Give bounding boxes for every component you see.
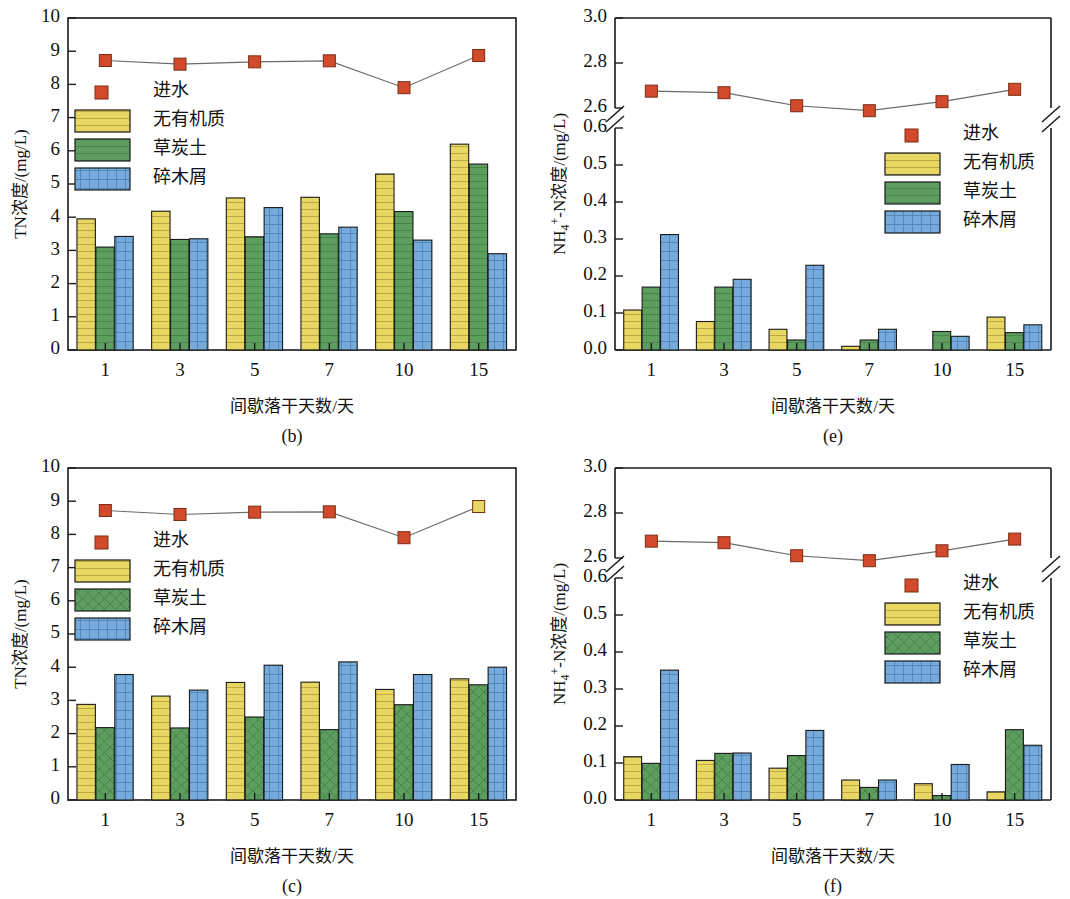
y-tick-label: 2 xyxy=(51,271,61,292)
inflow-marker xyxy=(323,506,335,518)
bar-peat-soil xyxy=(96,728,114,800)
bar-peat-soil xyxy=(320,234,338,350)
y-tick-label: 0 xyxy=(51,787,61,808)
bar-peat-soil xyxy=(1005,730,1023,800)
y-axis-title: TN浓度/(mg/L) xyxy=(11,129,30,239)
bar-peat-soil xyxy=(469,164,487,350)
inflow-marker xyxy=(863,105,875,117)
legend-swatch-no-organic xyxy=(75,560,130,582)
bar-peat-soil xyxy=(171,728,189,800)
inflow-marker xyxy=(718,537,730,549)
inflow-marker xyxy=(174,58,186,70)
y-tick-label: 8 xyxy=(51,72,61,93)
bar-wood-chips xyxy=(733,279,751,350)
inflow-marker xyxy=(1009,83,1021,95)
bar-wood-chips xyxy=(733,753,751,800)
bar-no-organic xyxy=(301,197,319,350)
legend-label-peat-soil: 草炭土 xyxy=(153,588,207,608)
bar-wood-chips xyxy=(488,667,506,800)
y-tick-label: 7 xyxy=(51,555,61,576)
legend-label-wood-chips: 碎木屑 xyxy=(963,210,1017,230)
legend-swatch-wood-chips xyxy=(75,618,130,640)
bar-no-organic xyxy=(226,682,244,800)
figure-container: 01234567891013571015进水无有机质草炭土碎木屑TN浓度/(mg… xyxy=(0,0,1070,899)
y-tick-label: 7 xyxy=(51,105,61,126)
y-tick-label: 0.5 xyxy=(583,152,607,173)
legend-swatch-inflow xyxy=(95,86,108,99)
bar-wood-chips xyxy=(806,730,824,800)
legend-swatch-wood-chips xyxy=(885,661,940,683)
y-tick-label: 6 xyxy=(51,588,61,609)
legend-swatch-peat-soil xyxy=(75,139,130,161)
y-tick-label: 0.4 xyxy=(583,189,607,210)
legend-swatch-inflow xyxy=(905,129,918,142)
bar-wood-chips xyxy=(413,240,431,350)
legend-swatch-wood-chips xyxy=(885,211,940,233)
x-tick-label: 7 xyxy=(325,359,335,380)
inflow-marker xyxy=(1009,533,1021,545)
y-tick-label: 2.6 xyxy=(583,95,607,116)
x-axis-title: 间歇落干天数/天 xyxy=(230,847,354,866)
y-tick-label: 3.0 xyxy=(583,455,607,476)
bar-peat-soil xyxy=(395,212,413,350)
y-axis-title-text: NH4+-N浓度/(mg/L) xyxy=(548,563,572,705)
bar-peat-soil xyxy=(96,247,114,350)
inflow-marker xyxy=(791,100,803,112)
bar-no-organic xyxy=(696,760,714,800)
y-tick-label: 2.8 xyxy=(583,500,607,521)
inflow-marker xyxy=(718,87,730,99)
legend-label-inflow: 进水 xyxy=(153,80,189,100)
x-tick-label: 5 xyxy=(250,359,260,380)
y-tick-label: 0.0 xyxy=(583,787,607,808)
bar-no-organic xyxy=(624,310,642,350)
bar-no-organic xyxy=(769,768,787,800)
inflow-marker xyxy=(398,82,410,94)
y-tick-label: 1 xyxy=(51,304,61,325)
chart-svg-b: 01234567891013571015进水无有机质草炭土碎木屑TN浓度/(mg… xyxy=(0,0,535,450)
y-tick-label: 0 xyxy=(51,337,61,358)
bar-wood-chips xyxy=(661,670,679,800)
y-axis-title: NH4+-N浓度/(mg/L) xyxy=(548,563,572,705)
legend-label-no-organic: 无有机质 xyxy=(153,559,225,579)
x-tick-label: 15 xyxy=(1005,809,1024,830)
bar-no-organic xyxy=(987,317,1005,350)
inflow-marker xyxy=(863,555,875,567)
legend-swatch-no-organic xyxy=(75,110,130,132)
bar-no-organic xyxy=(987,792,1005,800)
y-tick-label: 6 xyxy=(51,138,61,159)
legend-label-no-organic: 无有机质 xyxy=(153,109,225,129)
bar-wood-chips xyxy=(951,764,969,800)
legend-swatch-wood-chips xyxy=(75,168,130,190)
bar-wood-chips xyxy=(264,208,282,350)
y-tick-label: 5 xyxy=(51,621,61,642)
x-tick-label: 3 xyxy=(175,809,185,830)
x-tick-label: 5 xyxy=(792,359,802,380)
y-tick-label: 4 xyxy=(51,655,61,676)
y-tick-label: 5 xyxy=(51,171,61,192)
x-axis-title: 间歇落干天数/天 xyxy=(230,397,354,416)
bar-peat-soil xyxy=(245,717,263,800)
bar-no-organic xyxy=(152,211,170,350)
y-tick-label: 10 xyxy=(41,455,60,476)
y-axis-title-text: NH4+-N浓度/(mg/L) xyxy=(548,113,572,255)
y-axis-title: NH4+-N浓度/(mg/L) xyxy=(548,113,572,255)
y-tick-label: 0.2 xyxy=(583,713,607,734)
y-tick-label: 0.5 xyxy=(583,602,607,623)
x-tick-label: 1 xyxy=(647,359,657,380)
x-tick-label: 10 xyxy=(395,809,414,830)
y-tick-label: 10 xyxy=(41,5,60,26)
inflow-marker xyxy=(99,504,111,516)
bar-wood-chips xyxy=(1024,745,1042,800)
bar-no-organic xyxy=(842,780,860,800)
x-tick-label: 10 xyxy=(933,809,952,830)
x-tick-label: 3 xyxy=(719,359,729,380)
y-tick-label: 2 xyxy=(51,721,61,742)
inflow-marker xyxy=(398,532,410,544)
inflow-marker xyxy=(249,56,261,68)
bar-no-organic xyxy=(77,704,95,800)
x-tick-label: 15 xyxy=(469,809,488,830)
bar-wood-chips xyxy=(1024,325,1042,350)
panel-label: (c) xyxy=(282,876,302,897)
legend-swatch-peat-soil xyxy=(75,589,130,611)
bar-wood-chips xyxy=(115,675,133,800)
